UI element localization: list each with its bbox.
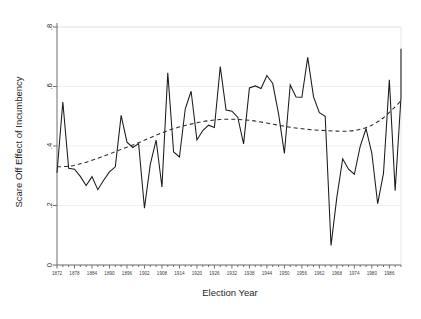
x-axis-tick-label: 1950	[279, 271, 290, 276]
x-axis-tick-label: 1974	[349, 271, 360, 276]
y-axis-tick-label: .8	[45, 24, 54, 30]
x-axis-tick-label: 1890	[104, 271, 115, 276]
x-axis-tick-label: 1908	[157, 271, 168, 276]
x-axis-tick-label: 1986	[384, 271, 395, 276]
x-axis-tick-label: 1980	[367, 271, 378, 276]
chart-figure: 1872187818841890189619021908191419201926…	[0, 0, 421, 319]
x-axis-title: Election Year	[202, 287, 257, 298]
y-axis-tick-label: .6	[45, 83, 54, 89]
x-axis-tick-label: 1944	[262, 271, 273, 276]
y-axis-title: Scare Off Effect of Incumbency	[13, 76, 24, 207]
x-axis-tick-label: 1938	[244, 271, 255, 276]
x-axis-tick-label: 1902	[139, 271, 150, 276]
x-axis-tick-label: 1962	[314, 271, 325, 276]
x-axis-tick-label: 1932	[227, 271, 238, 276]
x-axis-tick-label: 1878	[69, 271, 80, 276]
y-axis-tick-label: 0	[45, 263, 54, 267]
scare-off-effect-line-chart: 1872187818841890189619021908191419201926…	[0, 0, 421, 319]
x-axis-tick-label: 1968	[332, 271, 343, 276]
x-axis-tick-label: 1872	[52, 271, 63, 276]
y-axis-tick-label: .4	[45, 143, 54, 149]
x-axis-tick-label: 1896	[122, 271, 133, 276]
x-axis-tick-label: 1920	[192, 271, 203, 276]
x-axis-tick-label: 1926	[209, 271, 220, 276]
x-axis-tick-label: 1914	[174, 271, 185, 276]
x-axis-tick-label: 1884	[87, 271, 98, 276]
y-axis-tick-label: .2	[45, 202, 54, 208]
x-axis-tick-label: 1956	[297, 271, 308, 276]
